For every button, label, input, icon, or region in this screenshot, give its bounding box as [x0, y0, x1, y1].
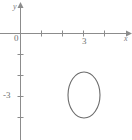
y-axis-label: y	[13, 3, 17, 11]
origin-label: 0	[14, 34, 19, 43]
y-axis-arrowhead	[18, 2, 24, 8]
coordinate-plane-svg	[0, 0, 132, 140]
ellipse-curve	[68, 72, 100, 118]
y-tick-label-neg3: -3	[3, 91, 11, 100]
graph-figure: y x 0 3 -3	[0, 0, 132, 140]
x-tick-label-3: 3	[82, 37, 87, 46]
x-axis-label: x	[124, 35, 128, 43]
